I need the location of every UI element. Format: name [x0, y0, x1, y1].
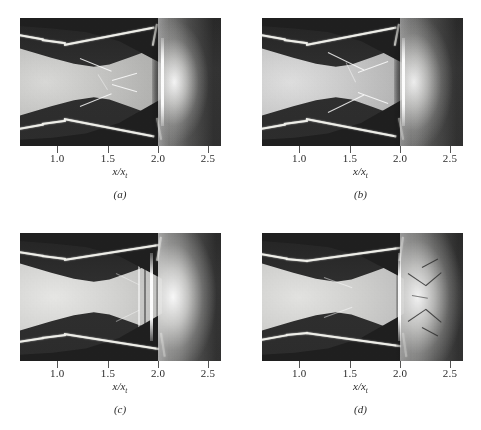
exit-plane-bar: [402, 38, 405, 126]
panel-label-c: (c): [0, 403, 240, 415]
axis-title-subscript: t: [125, 171, 127, 180]
axis-title-subscript: t: [366, 171, 368, 180]
axis-title-main: x/x: [113, 165, 126, 177]
panel-c: 1.0 1.5 2.0 2.5 x/xt (c): [0, 215, 240, 430]
axis-title: x/xt: [240, 165, 481, 180]
axis-tick-label: 1.5: [343, 152, 357, 164]
exhaust-plume: [400, 233, 463, 361]
axis-title-main: x/x: [113, 380, 126, 392]
axis-tick-label: 1.0: [50, 152, 64, 164]
axis-tick-label: 2.5: [201, 152, 215, 164]
panel-c-axis: 1.0 1.5 2.0 2.5: [20, 361, 221, 370]
axis-title: x/xt: [0, 165, 240, 180]
axis-tick-label: 2.5: [201, 367, 215, 379]
panel-a-image: [20, 18, 221, 146]
panel-a-axis: 1.0 1.5 2.0 2.5: [20, 146, 221, 155]
axis-tick-label: 2.0: [393, 152, 407, 164]
panel-label-d: (d): [240, 403, 481, 415]
axis-tick-label: 1.0: [50, 367, 64, 379]
axis-tick-label: 1.0: [292, 152, 306, 164]
exit-plane-bar: [398, 253, 401, 341]
panel-label-b: (b): [240, 188, 481, 200]
axis-title-main: x/x: [353, 380, 366, 392]
axis-tick-label: 2.5: [443, 152, 457, 164]
panel-label-a: (a): [0, 188, 240, 200]
exit-plane-bar: [150, 253, 153, 341]
axis-tick-label: 1.5: [343, 367, 357, 379]
axis-title-subscript: t: [366, 386, 368, 395]
axis-tick-label: 1.5: [101, 152, 115, 164]
panel-d: 1.0 1.5 2.0 2.5 x/xt (d): [240, 215, 481, 430]
axis-tick-label: 1.5: [101, 367, 115, 379]
axis-tick-label: 2.5: [443, 367, 457, 379]
exhaust-plume: [158, 18, 221, 146]
axis-title-main: x/x: [353, 165, 366, 177]
panel-b-image: [262, 18, 463, 146]
axis-tick-label: 2.0: [151, 367, 165, 379]
figure-grid: 1.0 1.5 2.0 2.5 x/xt (a): [0, 0, 481, 430]
panel-d-image: [262, 233, 463, 361]
panel-a: 1.0 1.5 2.0 2.5 x/xt (a): [0, 0, 240, 215]
axis-title-subscript: t: [125, 386, 127, 395]
axis-tick-label: 1.0: [292, 367, 306, 379]
exhaust-plume: [400, 18, 463, 146]
panel-d-axis: 1.0 1.5 2.0 2.5: [262, 361, 463, 370]
axis-title: x/xt: [0, 380, 240, 395]
exit-plane-bar: [161, 38, 164, 126]
panel-b-axis: 1.0 1.5 2.0 2.5: [262, 146, 463, 155]
axis-title: x/xt: [240, 380, 481, 395]
panel-b: 1.0 1.5 2.0 2.5 x/xt (b): [240, 0, 481, 215]
exhaust-plume: [158, 233, 221, 361]
panel-c-image: [20, 233, 221, 361]
axis-tick-label: 2.0: [393, 367, 407, 379]
axis-tick-label: 2.0: [151, 152, 165, 164]
